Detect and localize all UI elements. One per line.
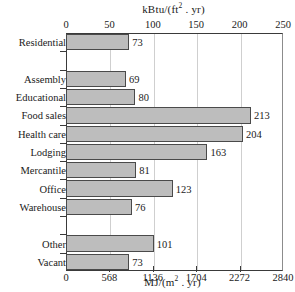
category-label: Assembly <box>24 73 66 84</box>
bar-value-label: 213 <box>251 110 270 121</box>
bar-chart: kBtu/(ft2 . yr) 050100150200250 05681136… <box>0 0 295 292</box>
bar <box>66 199 132 215</box>
top-axis-title: kBtu/(ft2 . yr) <box>0 1 295 15</box>
bar <box>66 71 126 87</box>
bar-value-label: 163 <box>207 146 226 157</box>
top-axis-unit-prefix: kBtu/(ft <box>142 3 178 15</box>
bar-value-label: 76 <box>132 201 146 212</box>
category-label: Office <box>39 183 66 194</box>
bar <box>66 254 129 270</box>
bar <box>66 235 154 251</box>
category-label: Vacant <box>37 256 66 267</box>
bar <box>66 34 129 50</box>
category-label: Warehouse <box>20 201 66 212</box>
bar <box>66 162 136 178</box>
bar <box>66 180 173 196</box>
bottom-axis-unit-prefix: MJ/(m <box>144 276 174 288</box>
top-axis-unit-suffix: . yr) <box>183 3 205 15</box>
bar-value-label: 101 <box>154 238 173 249</box>
top-axis-tick-label: 200 <box>232 19 248 30</box>
bar-value-label: 69 <box>126 73 140 84</box>
bar-value-label: 73 <box>129 256 143 267</box>
top-axis-tick-label: 50 <box>104 19 115 30</box>
top-axis-tick-label: 250 <box>275 19 291 30</box>
category-label: Lodging <box>30 147 66 158</box>
bar-value-label: 123 <box>173 183 192 194</box>
top-axis-tick-label: 0 <box>63 19 68 30</box>
bottom-axis-unit-suffix: . yr) <box>179 276 201 288</box>
category-label: Residential <box>19 37 66 48</box>
y-axis-tick-mark <box>60 216 66 217</box>
y-axis-tick-mark <box>60 51 66 52</box>
bar-value-label: 73 <box>129 37 143 48</box>
bar <box>66 89 135 105</box>
bar <box>66 107 251 123</box>
category-label: Mercantile <box>21 165 66 176</box>
bar-value-label: 80 <box>135 92 149 103</box>
top-axis-tick-label: 150 <box>188 19 204 30</box>
top-axis-tick-label: 100 <box>145 19 161 30</box>
top-axis-tick-labels: 050100150200250 <box>66 19 283 31</box>
category-label: Health care <box>18 128 66 139</box>
category-label: Food sales <box>21 110 66 121</box>
bar <box>66 144 207 160</box>
category-label: Other <box>42 238 66 249</box>
bottom-axis-title: MJ/(m2 . yr) <box>0 274 295 288</box>
category-label: Educational <box>16 92 66 103</box>
bar-value-label: 204 <box>243 128 262 139</box>
bar-value-label: 81 <box>136 165 150 176</box>
bar <box>66 126 243 142</box>
